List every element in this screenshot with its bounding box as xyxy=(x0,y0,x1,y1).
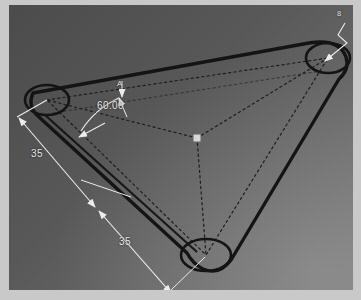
dimension-text-35-upper: 35 xyxy=(31,148,43,159)
angle-arrow xyxy=(79,123,105,137)
angle-dimension-text: 60.00 xyxy=(97,100,124,111)
dimension-line-35-upper xyxy=(19,118,95,207)
dimension-witness-tick xyxy=(81,180,131,197)
dimension-text-35-lower: 35 xyxy=(119,236,131,247)
drawing-canvas[interactable]: 60.00 A 35 35 8 xyxy=(9,5,353,290)
datum-label-a: A xyxy=(117,79,123,88)
dimension-line-35-lower xyxy=(99,211,171,290)
cad-drawing-screenshot: 60.00 A 35 35 8 xyxy=(0,0,361,300)
dimension-witness-tick-bottom xyxy=(169,257,205,290)
hole-leader-line xyxy=(325,23,347,61)
hole-leader-label: 8 xyxy=(337,9,342,18)
dimension-layer xyxy=(9,5,353,290)
extension-line-left xyxy=(17,100,47,117)
